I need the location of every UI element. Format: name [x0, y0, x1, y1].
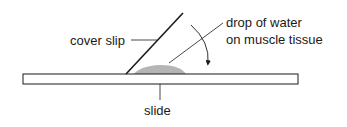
slide-label: slide — [144, 103, 171, 118]
wet-mount-diagram: cover slip drop of water on muscle tissu… — [0, 0, 347, 127]
water-drop — [134, 65, 186, 74]
microscope-slide — [23, 74, 298, 84]
drop-leader — [169, 23, 223, 63]
cover-slip — [126, 13, 183, 74]
cover-slip-label: cover slip — [70, 33, 125, 48]
lowering-arrow-icon — [191, 25, 208, 63]
drop-label-line1: drop of water — [226, 15, 303, 30]
drop-label-line2: on muscle tissue — [226, 32, 323, 47]
